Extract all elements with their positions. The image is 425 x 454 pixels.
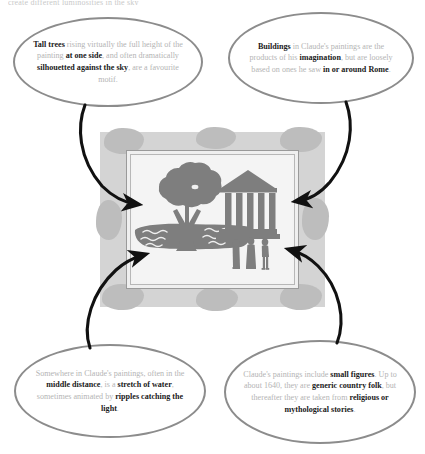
claude-landscape-diagram	[100, 132, 325, 307]
frame-ornament-bottom-center	[196, 287, 238, 311]
bubble-buildings-text: Buildings in Claude's paintings are the …	[246, 41, 396, 76]
cut-off-header-text: create different luminosities in the sky	[8, 0, 139, 5]
bubble-figures-text: Claude's paintings include small figures…	[242, 369, 398, 415]
bubble-tall-trees: Tall trees rising virtually the full hei…	[13, 17, 203, 107]
figure-3	[262, 239, 270, 270]
figure-1	[233, 239, 241, 269]
bubble-figures: Claude's paintings include small figures…	[224, 340, 416, 444]
classical-temple	[216, 170, 280, 239]
bubble-buildings: Buildings in Claude's paintings are the …	[228, 12, 414, 104]
bubble-water-text: Somewhere in Claude's paintings, often i…	[32, 368, 188, 414]
diagram-stage: create different luminosities in the sky	[0, 0, 425, 454]
bubble-water: Somewhere in Claude's paintings, often i…	[14, 344, 206, 438]
bubble-tall-trees-text: Tall trees rising virtually the full hei…	[31, 39, 185, 85]
painting-canvas	[133, 157, 292, 282]
small-figures	[233, 237, 270, 269]
